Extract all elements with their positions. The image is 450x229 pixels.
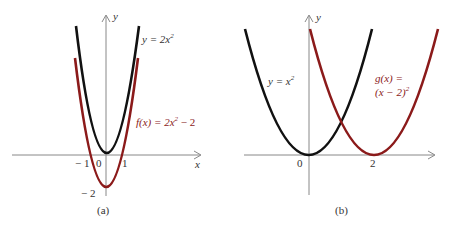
y-axis-label: y xyxy=(315,11,321,23)
base-curve-label: y = 2x2 xyxy=(141,32,174,45)
y-axis-label: y xyxy=(112,10,118,22)
caption-a: (a) xyxy=(97,204,110,217)
tick-2: 2 xyxy=(370,157,376,169)
tick-neg2: − 2 xyxy=(81,187,95,199)
caption-b: (b) xyxy=(335,204,348,217)
curve-g-x-minus-2-squared xyxy=(310,29,438,155)
base-curve-label: y = x2 xyxy=(267,74,295,87)
tick-0: 0 xyxy=(96,157,102,169)
figure: y x − 1 0 1 − 2 y = 2x2 f(x) = 2x2 − 2 (… xyxy=(0,0,450,229)
transformed-curve-label-line2: (x − 2)2 xyxy=(375,85,410,99)
panel-a: y x − 1 0 1 − 2 y = 2x2 f(x) = 2x2 − 2 (… xyxy=(12,10,201,217)
transformed-curve-label-line1: g(x) = xyxy=(375,72,403,85)
panel-b: y 0 2 y = x2 g(x) = (x − 2)2 (b) xyxy=(244,11,438,217)
transformed-curve-label: f(x) = 2x2 − 2 xyxy=(136,115,195,129)
x-axis-label: x xyxy=(194,158,200,170)
tick-neg1: − 1 xyxy=(75,157,89,169)
tick-1: 1 xyxy=(122,157,128,169)
tick-0: 0 xyxy=(297,157,303,169)
